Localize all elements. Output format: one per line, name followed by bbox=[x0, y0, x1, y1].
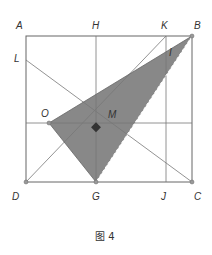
label-a: A bbox=[15, 20, 23, 31]
line-lc bbox=[26, 60, 192, 182]
label-c: C bbox=[194, 191, 202, 202]
label-k: K bbox=[161, 20, 169, 31]
label-j: J bbox=[160, 191, 167, 202]
label-o: O bbox=[41, 108, 49, 119]
label-i: I bbox=[169, 47, 172, 58]
point-g bbox=[94, 180, 98, 184]
label-d: D bbox=[12, 191, 19, 202]
label-m: M bbox=[108, 109, 117, 120]
label-l: L bbox=[14, 53, 20, 64]
geometry-figure: A H K B L I O M D G J C 图 4 bbox=[0, 0, 212, 255]
figure-caption: 图 4 bbox=[95, 231, 115, 242]
point-o bbox=[47, 121, 51, 125]
label-b: B bbox=[194, 20, 201, 31]
point-c bbox=[190, 180, 194, 184]
label-h: H bbox=[92, 20, 100, 31]
label-g: G bbox=[92, 191, 100, 202]
point-b bbox=[190, 34, 194, 38]
point-d bbox=[24, 180, 28, 184]
